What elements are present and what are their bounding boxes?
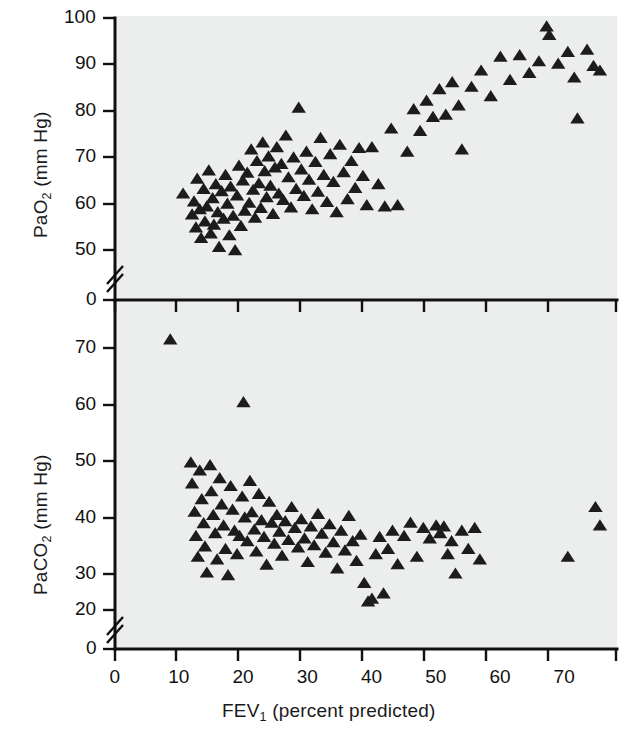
x-tick-label: 20 [232,666,253,688]
upper-panel-background [116,16,617,300]
figure-container: PaO2 (mm Hg) PaCO2 (mm Hg) FEV1 (percent… [0,0,637,739]
x-tick-label: 10 [168,666,189,688]
lower-y-tick-label: 70 [75,336,96,358]
upper-y-tick-label: 70 [75,145,96,167]
x-tick-label: 0 [110,666,121,688]
x-tick-label: 70 [554,666,575,688]
x-tick-label: 30 [297,666,318,688]
lower-panel-background [116,302,617,649]
lower-y-tick-label: 40 [75,506,96,528]
lower-y-tick-label: 30 [75,562,96,584]
lower-y-tick-label: 20 [75,598,96,620]
lower-y-tick-label: 50 [75,449,96,471]
lower-y-tick-label: 0 [86,637,97,659]
x-tick-label: 50 [425,666,446,688]
x-tick-label: 40 [361,666,382,688]
upper-y-tick-label: 100 [64,6,96,28]
lower-y-tick-label: 60 [75,393,96,415]
upper-y-tick-label: 0 [86,288,97,310]
x-tick-label: 60 [489,666,510,688]
upper-y-tick-label: 50 [75,238,96,260]
upper-y-tick-label: 80 [75,99,96,121]
upper-y-tick-label: 90 [75,52,96,74]
upper-y-tick-label: 60 [75,192,96,214]
